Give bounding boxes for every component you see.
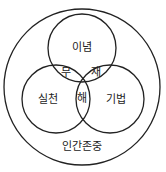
left-circle-label: 실천 bbox=[38, 90, 58, 106]
outer-circle-label: 인간존중 bbox=[62, 137, 102, 153]
top-circle-label: 이념 bbox=[72, 38, 92, 54]
right-circle-label: 기법 bbox=[106, 90, 126, 106]
intersection-left-right-label: 해 bbox=[77, 89, 87, 105]
venn-diagram: 이념 실천 기법 무 재 해 인간존중 bbox=[0, 0, 166, 172]
intersection-top-left-label: 무 bbox=[61, 63, 71, 79]
intersection-top-right-label: 재 bbox=[91, 63, 101, 79]
